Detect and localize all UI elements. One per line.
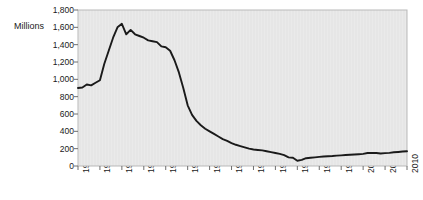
x-axis-ticks (78, 166, 407, 170)
line-chart: 1,8001,6001,4001,2001,0008006004002000 1… (0, 0, 423, 200)
plot-canvas (0, 0, 423, 200)
